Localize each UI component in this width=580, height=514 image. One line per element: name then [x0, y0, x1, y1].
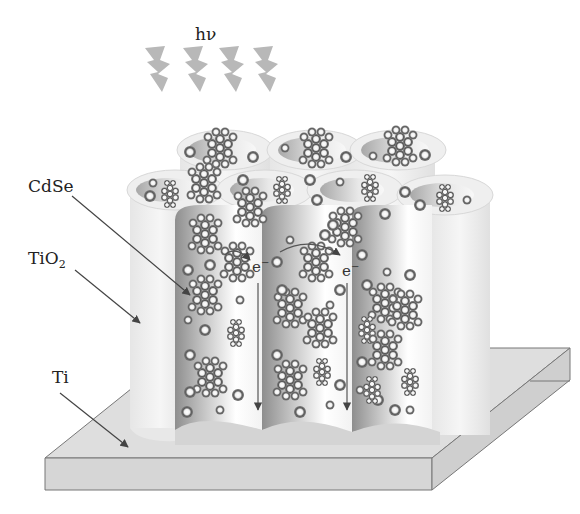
electron-label-1: e− [252, 258, 269, 275]
electron-charge: − [261, 257, 269, 268]
tio2-label: TiO2 [28, 250, 66, 270]
electron-label-2: e− [342, 262, 359, 279]
electron-symbol: e [252, 258, 261, 276]
light-bolt-icon [253, 46, 278, 92]
tio2-label-main: TiO [28, 248, 59, 268]
light-bolt-icon [183, 46, 208, 92]
electron-symbol: e [342, 262, 351, 280]
light-label: hν [195, 26, 216, 43]
light-bolts [145, 46, 278, 92]
ti-label: Ti [52, 369, 69, 386]
electron-charge: − [351, 261, 359, 272]
tio2-label-subscript: 2 [59, 258, 66, 271]
diagram-canvas [0, 0, 580, 514]
light-bolt-icon [219, 46, 244, 92]
cdse-label: CdSe [28, 178, 74, 195]
light-bolt-icon [145, 46, 170, 92]
